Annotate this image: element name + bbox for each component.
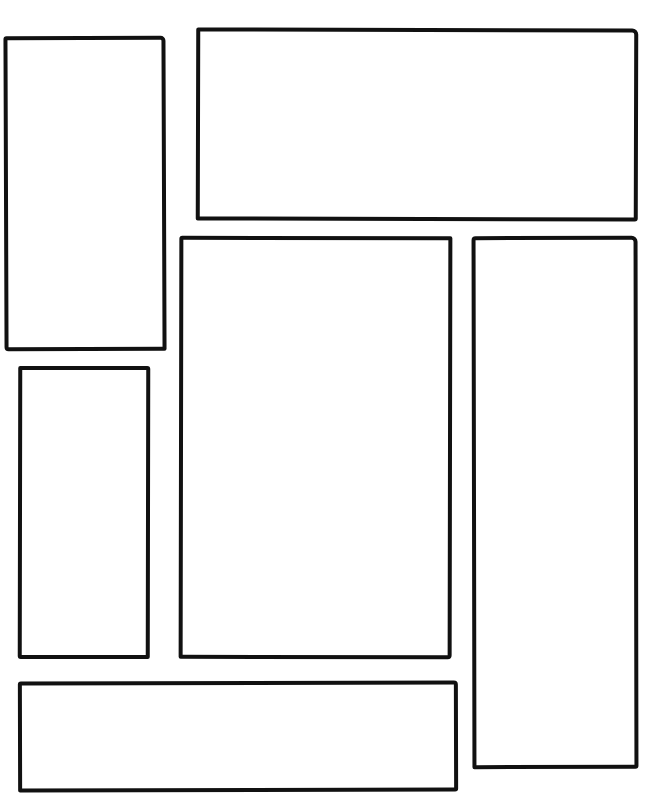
panel-top-wide bbox=[196, 27, 639, 221]
comic-page bbox=[0, 0, 648, 798]
panel-bottom-wide bbox=[18, 680, 458, 792]
panel-top-left bbox=[3, 36, 166, 352]
panel-right-tall bbox=[472, 236, 639, 769]
panel-center-tall bbox=[179, 236, 453, 659]
panel-left-middle bbox=[18, 366, 151, 659]
